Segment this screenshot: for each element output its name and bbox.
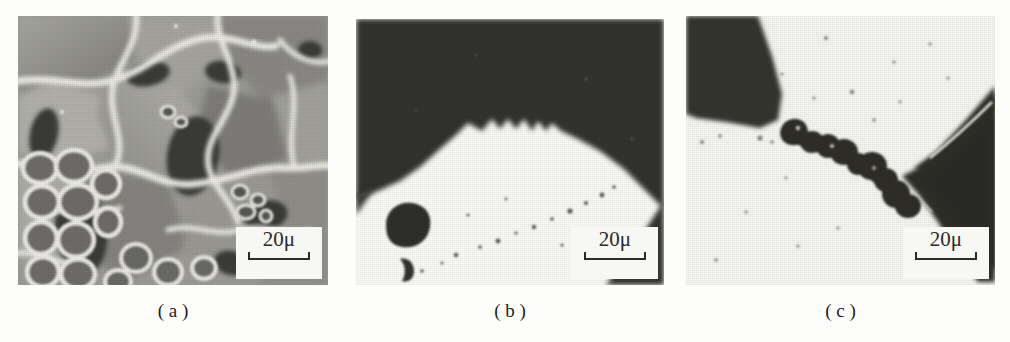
panel-b-scale-bar-bracket	[584, 251, 646, 260]
panel-c-scale-bar: 20μ	[903, 227, 989, 279]
scale-bar-tick-right	[644, 252, 646, 260]
panel-b-image: 20μ	[356, 19, 664, 285]
panel-a-scale-bar-bracket	[248, 251, 310, 260]
panel-c-image: 20μ	[686, 16, 995, 285]
panel-b-caption: ( b )	[356, 300, 664, 322]
panel-c-scale-bar-label: 20μ	[930, 228, 962, 250]
scale-bar-tick-right	[308, 252, 310, 260]
scale-bar-line	[248, 258, 310, 260]
scale-bar-tick-right	[975, 252, 977, 260]
panel-a-scale-bar-label: 20μ	[263, 228, 295, 250]
scale-bar-line	[915, 258, 977, 260]
panel-c-scale-bar-bracket	[915, 251, 977, 260]
panel-b-scale-bar: 20μ	[572, 227, 658, 279]
panel-a-scale-bar: 20μ	[236, 227, 322, 279]
scale-bar-line	[584, 258, 646, 260]
panel-c-caption: ( c )	[686, 300, 995, 322]
panel-a-image: 20μ	[18, 16, 328, 285]
panel-a-caption: ( a )	[18, 300, 328, 322]
figure-container: 20μ	[0, 0, 1010, 342]
panel-b-scale-bar-label: 20μ	[599, 228, 631, 250]
